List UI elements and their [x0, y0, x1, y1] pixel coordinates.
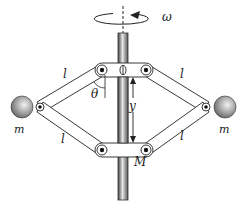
pivot-dot [204, 105, 208, 109]
shaft-mid-section [118, 77, 128, 143]
pivot-dot [144, 148, 148, 152]
pivot-dot [38, 105, 42, 109]
label-l-lower-right: l [180, 129, 184, 143]
pivot-dot [144, 68, 148, 72]
label-M: M [133, 155, 147, 169]
label-l-upper-left: l [63, 67, 67, 81]
arm-lower-left [37, 102, 105, 155]
mass-right [214, 96, 236, 118]
pivot-dot [100, 68, 104, 72]
mass-left [11, 96, 33, 118]
pivot-dot [100, 148, 104, 152]
label-m-right: m [219, 123, 229, 136]
governor-diagram: ω l l l l θ y m m M [0, 0, 247, 214]
arm-lower-right [143, 102, 209, 155]
rotation-arc [94, 14, 148, 25]
label-m-left: m [14, 123, 24, 136]
rotation-arrow-icon [130, 11, 140, 19]
rotation-indicator [94, 6, 148, 33]
arrow-up-icon [130, 77, 136, 84]
label-omega: ω [162, 10, 172, 24]
label-theta: θ [91, 87, 99, 101]
label-l-upper-right: l [180, 67, 184, 81]
label-y: y [128, 99, 136, 113]
label-l-lower-left: l [61, 132, 65, 146]
arrow-down-icon [130, 136, 136, 143]
